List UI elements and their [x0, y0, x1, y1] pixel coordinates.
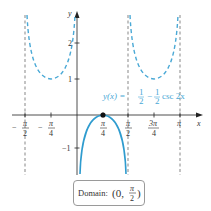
- xtick-three-quarter-pi: 3π 4: [148, 119, 159, 138]
- equation-label: y(x) = 1 2 − 1 2 csc 2x: [102, 87, 185, 106]
- x-axis-arrow-icon: [196, 113, 203, 118]
- domain-box: [73, 180, 145, 206]
- svg-text:π: π: [49, 119, 54, 128]
- svg-text:2: 2: [139, 96, 144, 106]
- xtick-half-pi: π 2: [125, 119, 132, 138]
- svg-text:π: π: [126, 119, 131, 128]
- svg-text:−: −: [147, 91, 152, 101]
- ytick-2: 2: [68, 39, 72, 48]
- ytick-1: 1: [68, 75, 72, 84]
- y-axis-arrow-icon: [75, 11, 80, 18]
- xtick-pi: π: [177, 119, 182, 128]
- svg-text:2: 2: [155, 96, 160, 106]
- ytick-neg1: −1: [62, 144, 71, 153]
- svg-text:π: π: [23, 119, 28, 128]
- svg-text:3π: 3π: [148, 119, 158, 128]
- svg-text:4: 4: [101, 129, 105, 138]
- svg-text:4: 4: [49, 129, 53, 138]
- xtick-quarter-pi: π 4: [100, 119, 107, 138]
- svg-text:π: π: [101, 119, 106, 128]
- max-point-marker: [100, 112, 105, 117]
- svg-text:−: −: [38, 123, 43, 132]
- dashed-curve-right: [130, 15, 178, 79]
- svg-text:−: −: [12, 123, 17, 132]
- svg-text:4: 4: [152, 129, 156, 138]
- xtick-neg-half-pi: − π 2: [12, 119, 29, 138]
- svg-text:2: 2: [126, 129, 130, 138]
- svg-text:y(x) =: y(x) =: [102, 91, 125, 101]
- svg-text:2: 2: [23, 129, 27, 138]
- xtick-neg-quarter-pi: − π 4: [38, 119, 55, 138]
- x-axis-label: x: [196, 119, 201, 128]
- y-axis-label: y: [67, 9, 72, 18]
- svg-text:csc 2x: csc 2x: [162, 91, 185, 101]
